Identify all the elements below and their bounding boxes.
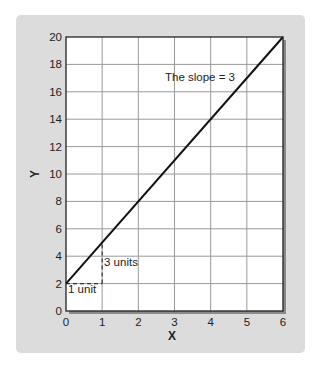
- y-tick-label: 10: [49, 168, 62, 180]
- slope-chart: 0123456 02468101214161820 X Y The slope …: [0, 0, 317, 369]
- x-tick-label: 3: [171, 316, 177, 328]
- y-tick-label: 6: [56, 223, 62, 235]
- x-tick-label: 5: [244, 316, 250, 328]
- x-tick-label: 0: [63, 316, 69, 328]
- run-annotation: 1 unit: [68, 283, 97, 295]
- y-tick-label: 12: [49, 141, 62, 153]
- y-tick-label: 0: [56, 305, 62, 317]
- rise-annotation: 3 units: [104, 256, 138, 268]
- y-tick-label: 20: [49, 31, 62, 43]
- y-tick-label: 8: [56, 195, 62, 207]
- x-axis-label: X: [168, 329, 176, 343]
- y-tick-label: 4: [56, 250, 63, 262]
- x-tick-labels: 0123456: [63, 316, 286, 328]
- y-tick-label: 16: [49, 86, 62, 98]
- y-tick-label: 18: [49, 58, 62, 70]
- x-tick-label: 4: [207, 316, 214, 328]
- y-axis-label: Y: [28, 170, 42, 178]
- slope-annotation: The slope = 3: [165, 71, 235, 83]
- x-tick-label: 1: [99, 316, 105, 328]
- y-tick-label: 14: [49, 113, 62, 125]
- y-tick-labels: 02468101214161820: [49, 31, 62, 317]
- x-tick-label: 2: [135, 316, 141, 328]
- y-tick-label: 2: [56, 278, 62, 290]
- x-tick-label: 6: [280, 316, 286, 328]
